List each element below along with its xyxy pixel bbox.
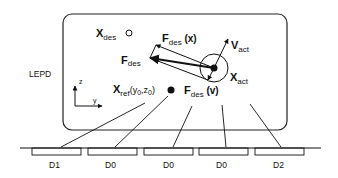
x-des-marker xyxy=(126,30,132,36)
connector-d2 xyxy=(250,104,281,147)
segment-d0-3: D0 xyxy=(199,148,248,170)
svg-text:D2: D2 xyxy=(273,160,284,170)
lepd-diagram: LEPD Xdes Fdes (x) Fdes Vact Xact z y Xr… xyxy=(0,0,338,178)
parallelogram-bottom xyxy=(150,58,208,80)
segment-d0-2: D0 xyxy=(144,148,193,170)
svg-text:D0: D0 xyxy=(216,160,227,170)
x-ref-dot xyxy=(168,87,175,94)
f-des-v-label: Fdes (v) xyxy=(184,84,219,99)
connector-d1 xyxy=(61,103,145,147)
f-des-arrow xyxy=(150,58,214,68)
svg-text:D1: D1 xyxy=(49,160,60,170)
connector-d0-a xyxy=(115,96,168,147)
parallelogram-top xyxy=(150,45,156,58)
y-axis-label: y xyxy=(93,97,97,105)
segment-d1: D1 xyxy=(32,148,81,170)
segment-d2: D2 xyxy=(255,148,304,170)
x-ref-label: Xref(y0,z0) xyxy=(113,83,155,98)
f-des-label: Fdes xyxy=(121,54,141,68)
lepd-label: LEPD xyxy=(29,69,51,79)
x-act-label: Xact xyxy=(230,71,249,86)
z-axis-label: z xyxy=(79,78,83,85)
segment-d0-1: D0 xyxy=(88,148,137,170)
svg-text:D0: D0 xyxy=(105,160,116,170)
v-act-label: Vact xyxy=(231,39,250,54)
connector-d0-b xyxy=(173,106,192,147)
svg-text:D0: D0 xyxy=(163,160,174,170)
v-act-arrow xyxy=(214,39,228,68)
f-des-x-label: Fdes (x) xyxy=(162,32,197,47)
connector-d0-c xyxy=(222,105,226,147)
x-des-label: Xdes xyxy=(96,27,116,42)
